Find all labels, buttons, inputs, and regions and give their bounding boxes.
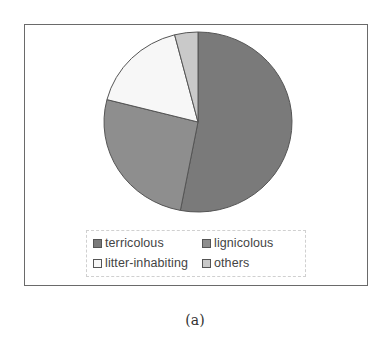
legend-item-others: others: [202, 256, 249, 270]
figure-caption: (a): [0, 312, 390, 328]
legend-label: lignicolous: [214, 236, 273, 250]
legend-swatch-litter-inhabiting: [93, 259, 102, 268]
legend-label: terricolous: [105, 236, 164, 250]
legend-item-litter-inhabiting: litter-inhabiting: [93, 256, 188, 270]
legend-item-lignicolous: lignicolous: [202, 236, 273, 250]
pie-slices: [104, 32, 292, 212]
legend-label: litter-inhabiting: [105, 256, 188, 270]
legend: terricolous lignicolous litter-inhabitin…: [86, 230, 306, 277]
legend-swatch-others: [202, 259, 211, 268]
legend-label: others: [214, 256, 249, 270]
legend-item-terricolous: terricolous: [93, 236, 164, 250]
pie-chart: [0, 0, 390, 348]
legend-swatch-terricolous: [93, 239, 102, 248]
legend-swatch-lignicolous: [202, 239, 211, 248]
